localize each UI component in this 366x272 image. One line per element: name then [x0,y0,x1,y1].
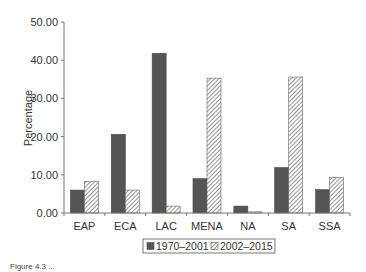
x-tick-label: MENA [191,220,223,232]
bar-lac-series2 [166,206,180,213]
bar-eap-series1 [70,190,84,213]
bar-mena-series1 [193,179,207,213]
x-tick-label: SSA [319,220,342,232]
y-tick-label: 40.00 [30,54,58,66]
bar-eca-series2 [125,190,139,213]
bars [70,53,343,213]
x-tick-label: SA [281,220,296,232]
y-tick-label: 50.00 [30,16,58,28]
bar-ssa-series1 [316,190,330,213]
x-tick-label: ECA [114,220,137,232]
bar-sa-series2 [289,77,303,213]
legend-label: 1970–2001 [156,240,209,252]
y-tick-label: 30.00 [30,92,58,104]
legend-hatched-swatch-icon [211,243,218,250]
y-tick-label: 20.00 [30,131,58,143]
bar-ssa-series2 [330,177,344,213]
bar-eap-series2 [84,181,98,213]
figure-caption: Figure 4.3 ... [10,262,55,271]
legend-label: 2002–2015 [220,240,273,252]
bar-na-series1 [234,206,248,213]
y-axis: 0.0010.0020.0030.0040.0050.00 [30,16,64,219]
y-tick-label: 10.00 [30,169,58,181]
legend: 1970–20012002–2015 [143,239,275,253]
x-tick-label: NA [240,220,256,232]
y-axis-label: Percentage [22,90,34,146]
bar-mena-series2 [207,78,221,213]
bar-lac-series1 [152,53,166,213]
x-tick-label: LAC [155,220,176,232]
bar-chart: 0.0010.0020.0030.0040.0050.00 EAPECALACM… [0,0,366,272]
legend-solid-swatch-icon [147,243,154,250]
bar-sa-series1 [275,168,289,213]
bar-eca-series1 [111,134,125,213]
x-axis: EAPECALACMENANASASSA [64,213,350,232]
y-tick-label: 0.00 [37,207,58,219]
x-tick-label: EAP [73,220,95,232]
